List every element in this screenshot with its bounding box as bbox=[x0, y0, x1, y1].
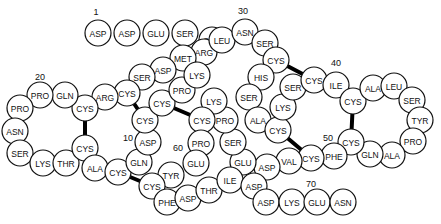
residue-label: ARG bbox=[96, 93, 114, 103]
residue-node: SER bbox=[172, 20, 198, 46]
residue-label: ILE bbox=[224, 176, 237, 186]
residue-label: SER bbox=[240, 93, 257, 103]
residue-label: SER bbox=[11, 149, 28, 159]
residue-node: LYS bbox=[279, 189, 305, 215]
residue-label: CYS bbox=[118, 89, 136, 99]
residue-label: CYS bbox=[76, 144, 94, 154]
residue-label: SER bbox=[284, 83, 301, 93]
residue-label: PRO bbox=[173, 86, 192, 96]
residue-label: PHE bbox=[325, 152, 343, 162]
residue-label: GLN bbox=[56, 91, 73, 101]
residue-label: SER bbox=[133, 73, 150, 83]
residue-label: ALA bbox=[365, 84, 381, 94]
residue-node: ILE bbox=[217, 167, 243, 193]
position-number: 70 bbox=[306, 179, 316, 189]
residue-label: ASP bbox=[179, 194, 196, 204]
residue-label: CYS bbox=[344, 97, 362, 107]
residue-label: LYS bbox=[189, 71, 205, 81]
position-number: 40 bbox=[331, 58, 341, 68]
residue-label: PRO bbox=[404, 137, 423, 147]
residue-label: ALA bbox=[250, 116, 266, 126]
residue-label: ALA bbox=[384, 151, 400, 161]
residue-node: PHE bbox=[321, 143, 347, 169]
residue-node: ALA bbox=[82, 155, 108, 181]
residue-node: PRO bbox=[7, 95, 33, 121]
residue-label: HIS bbox=[254, 73, 269, 83]
residue-label: CYS bbox=[109, 168, 127, 178]
residue-label: SER bbox=[176, 29, 193, 39]
residue-label: LYS bbox=[275, 103, 291, 113]
residue-label: GLU bbox=[308, 198, 325, 208]
residue-label: ASP bbox=[139, 138, 156, 148]
residue-label: GLU bbox=[234, 158, 251, 168]
residue-label: CYS bbox=[267, 56, 285, 66]
residue-label: ASN bbox=[6, 127, 23, 137]
residue-node: LYS bbox=[30, 150, 56, 176]
residue-label: ASN bbox=[334, 198, 351, 208]
residue-label: CYS bbox=[342, 138, 360, 148]
residue-label: LYS bbox=[284, 198, 300, 208]
residue-label: LEU bbox=[386, 82, 403, 92]
residue-node: GLN bbox=[52, 82, 78, 108]
disulfide-bond-diagram: ASPASPGLUSERSERARGMETASPSERCYSARGCYSGLNP… bbox=[0, 0, 441, 224]
position-number: 30 bbox=[238, 6, 248, 16]
residue-label: GLN bbox=[361, 150, 378, 160]
residue-label: GLU bbox=[147, 29, 164, 39]
residue-label: ASP bbox=[257, 198, 274, 208]
residue-label: CYS bbox=[76, 104, 94, 114]
residue-label: GLU bbox=[187, 159, 204, 169]
residue-chain: ASPASPGLUSERSERARGMETASPSERCYSARGCYSGLNP… bbox=[2, 19, 433, 215]
residue-label: VAL bbox=[281, 157, 297, 167]
residue-label: PRO bbox=[31, 91, 50, 101]
residue-label: SER bbox=[256, 39, 273, 49]
residue-label: SER bbox=[224, 138, 241, 148]
residue-label: ILE bbox=[330, 81, 343, 91]
residue-node: LEU bbox=[209, 27, 235, 53]
residue-label: LYS bbox=[206, 97, 222, 107]
position-number: 1 bbox=[93, 7, 98, 17]
residue-label: CYS bbox=[136, 116, 154, 126]
residue-label: ASP bbox=[118, 29, 135, 39]
residue-label: CYS bbox=[302, 154, 320, 164]
residue-label: ARG bbox=[195, 48, 213, 58]
residue-label: LYS bbox=[35, 159, 51, 169]
residue-label: ASP bbox=[258, 163, 275, 173]
residue-node: ASP bbox=[253, 189, 279, 215]
residue-label: CYS bbox=[269, 126, 287, 136]
residue-label: PRO bbox=[216, 116, 235, 126]
residue-label: THR bbox=[57, 159, 74, 169]
residue-label: ALA bbox=[87, 164, 103, 174]
position-number: 60 bbox=[173, 143, 183, 153]
residue-label: ASP bbox=[89, 29, 106, 39]
residue-label: ASP bbox=[154, 66, 171, 76]
residue-label: CYS bbox=[153, 99, 171, 109]
residue-node: GLU bbox=[143, 20, 169, 46]
residue-label: PRO bbox=[192, 139, 211, 149]
protein-sequence-diagram: ASPASPGLUSERSERARGMETASPSERCYSARGCYSGLNP… bbox=[0, 0, 441, 224]
residue-label: CYS bbox=[193, 116, 211, 126]
residue-node: GLU bbox=[183, 150, 209, 176]
residue-node: ASP bbox=[114, 20, 140, 46]
position-number: 10 bbox=[123, 133, 133, 143]
position-number: 20 bbox=[35, 72, 45, 82]
residue-label: SER bbox=[403, 96, 420, 106]
residue-label: LEU bbox=[214, 36, 231, 46]
residue-label: TYR bbox=[412, 116, 429, 126]
residue-node: ASP bbox=[85, 20, 111, 46]
residue-node: LYS bbox=[184, 62, 210, 88]
residue-label: PRO bbox=[11, 104, 30, 114]
residue-label: THR bbox=[200, 186, 217, 196]
residue-label: TYR bbox=[163, 171, 180, 181]
residue-node: SER bbox=[7, 140, 33, 166]
residue-label: ASN bbox=[236, 28, 253, 38]
residue-label: GLN bbox=[130, 158, 147, 168]
residue-node: SER bbox=[236, 84, 262, 110]
residue-node: CYS bbox=[189, 107, 215, 133]
position-number: 50 bbox=[323, 133, 333, 143]
residue-label: MET bbox=[174, 54, 192, 64]
residue-node: GLU bbox=[304, 189, 330, 215]
residue-label: CYS bbox=[305, 76, 323, 86]
residue-node: CYS bbox=[265, 117, 291, 143]
residue-node: ASN bbox=[330, 189, 356, 215]
residue-label: PHE bbox=[158, 198, 176, 208]
